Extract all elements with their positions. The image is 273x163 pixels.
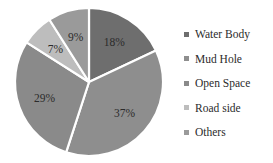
legend-item-label: Road side — [195, 102, 241, 114]
legend-item-label: Open Space — [195, 77, 250, 89]
legend-item-road-side[interactable]: Road side — [184, 101, 270, 115]
pie-chart-svg: 18%37%29%7%9% — [8, 6, 170, 158]
pie-chart-figure: 18%37%29%7%9% Water Body Mud Hole Open S… — [0, 0, 273, 163]
legend-marker-icon — [184, 81, 189, 86]
legend-item-others[interactable]: Others — [184, 125, 270, 139]
legend-item-water-body[interactable]: Water Body — [184, 27, 270, 41]
legend-item-label: Others — [195, 126, 226, 138]
pie-slice-value-label: 37% — [114, 107, 136, 119]
legend-item-label: Mud Hole — [195, 53, 242, 65]
legend-item-mud-hole[interactable]: Mud Hole — [184, 52, 270, 66]
pie-chart-plot-area: 18%37%29%7%9% — [8, 6, 170, 158]
legend-marker-icon — [184, 130, 189, 135]
pie-slice-group — [15, 8, 163, 156]
legend-marker-icon — [184, 32, 189, 37]
pie-slice-value-label: 18% — [104, 36, 126, 48]
legend-item-label: Water Body — [195, 28, 250, 40]
chart-legend: Water Body Mud Hole Open Space Road side… — [184, 27, 270, 139]
pie-slice-value-label: 29% — [34, 92, 56, 104]
legend-marker-icon — [184, 56, 189, 61]
pie-slice-value-label: 9% — [68, 31, 84, 43]
legend-item-open-space[interactable]: Open Space — [184, 76, 270, 90]
legend-marker-icon — [184, 105, 189, 110]
pie-slice-value-label: 7% — [48, 43, 64, 55]
